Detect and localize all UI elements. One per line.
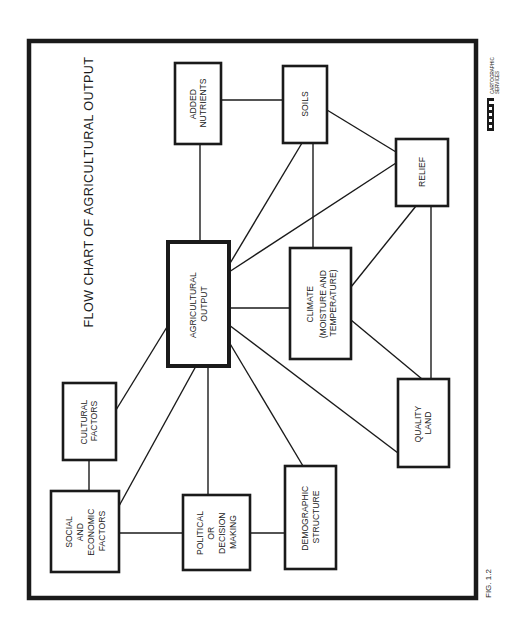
node-climate: CLIMATE (MOISTURE AND TEMPERATURE) — [290, 248, 351, 359]
node-label-line: AND — [75, 523, 85, 541]
edge-relief-climate — [351, 206, 416, 287]
svg-text:CARTOGRAPHIC SERVICES: CARTOGRAPHIC SERVICES — [490, 56, 500, 94]
figure-caption: FIG. 1.2 — [484, 569, 493, 598]
edge-soils-relief — [327, 110, 396, 152]
node-social-economic-factors: SOCIAL AND ECONOMIC FACTORS — [51, 491, 119, 572]
node-box — [51, 491, 119, 572]
svg-text:CULTURAL FACTORS: CULTURAL FACTORS — [79, 398, 99, 445]
node-label-line: (MOISTURE AND — [318, 270, 328, 338]
node-label-line: LAND — [423, 412, 433, 435]
edge-soils-output — [229, 143, 302, 265]
flow-chart-figure: FLOW CHART OF AGRICULTURAL OUTPUT — [0, 0, 508, 633]
node-label-line: QUALITY — [413, 405, 423, 442]
node-label-line: NUTRIENTS — [198, 78, 208, 127]
node-label-line: FACTORS — [89, 401, 99, 442]
uwm-logo: CARTOGRAPHIC SERVICES — [487, 56, 500, 131]
node-cultural-factors: CULTURAL FACTORS — [63, 383, 116, 460]
edge-climate-quality — [351, 320, 422, 379]
svg-text:SOILS: SOILS — [300, 91, 310, 117]
node-label-line: STRUCTURE — [311, 490, 321, 543]
node-label-line: OUTPUT — [199, 286, 209, 322]
node-political-decision-making: POLITICAL OR DECISION MAKING — [183, 495, 250, 570]
node-agricultural-output: AGRICULTURAL OUTPUT — [168, 242, 229, 366]
node-label-line: FACTORS — [97, 511, 107, 552]
edge-demographic-output — [229, 342, 303, 466]
node-label-line: ADDED — [188, 89, 198, 119]
node-label-line: CLIMATE — [305, 286, 315, 323]
node-relief: RELIEF — [396, 139, 448, 206]
node-label-line: OR — [206, 527, 216, 540]
node-demographic-structure: DEMOGRAPHIC STRUCTURE — [285, 466, 336, 569]
node-label-line: ECONOMIC — [86, 509, 96, 556]
node-added-nutrients: ADDED NUTRIENTS — [175, 63, 221, 144]
node-label-line: TEMPERATURE) — [328, 269, 338, 336]
node-label-line: POLITICAL — [195, 511, 205, 555]
svg-text:RELIEF: RELIEF — [417, 157, 427, 187]
edge-cultural-output — [116, 327, 167, 410]
node-label-line: DEMOGRAPHIC — [300, 486, 310, 551]
node-label-line: DECISION — [217, 512, 227, 554]
node-label-line: CULTURAL — [79, 399, 89, 444]
node-label-line: MAKING — [228, 515, 238, 549]
svg-text:POLITICAL OR DECIS: POLITICAL OR DECISION MAKING — [195, 509, 238, 555]
node-label-line: RELIEF — [417, 157, 427, 187]
node-soils: SOILS — [283, 66, 327, 143]
node-label-line: SOILS — [300, 91, 310, 117]
node-quality-land: QUALITY LAND — [398, 379, 449, 467]
chart-title: FLOW CHART OF AGRICULTURAL OUTPUT — [82, 57, 96, 328]
svg-text:DEMOGRAPHIC STRUCTURE: DEMOGRAPHIC STRUCTURE — [300, 483, 321, 550]
edges — [89, 100, 431, 533]
logo-line-2: SERVICES — [495, 71, 500, 94]
node-label-line: SOCIAL — [64, 516, 74, 548]
node-label-line: AGRICULTURAL — [188, 272, 198, 338]
uwm-logo-mark-icon — [487, 98, 494, 131]
